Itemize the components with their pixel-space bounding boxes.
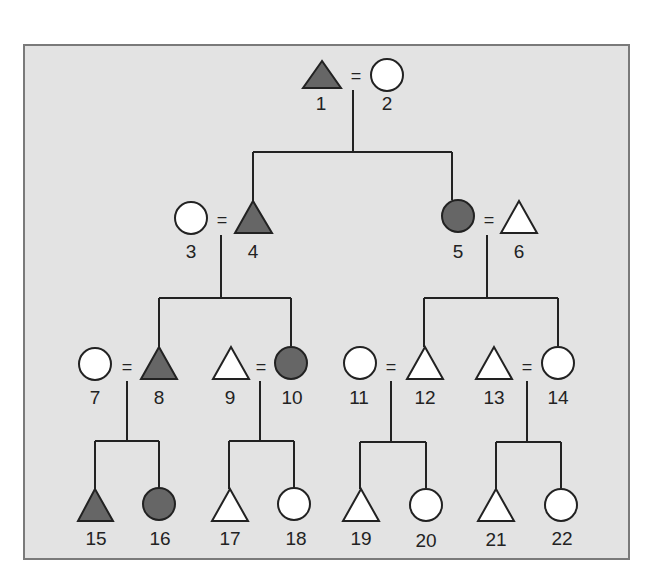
individual-11-circle-icon	[344, 347, 376, 379]
individual-10-circle-icon	[275, 347, 307, 379]
label-16: 16	[149, 528, 170, 549]
label-9: 9	[225, 387, 236, 408]
label-10: 10	[281, 387, 302, 408]
label-15: 15	[85, 528, 106, 549]
individual-5-circle-icon	[442, 200, 474, 232]
label-20: 20	[415, 530, 436, 551]
label-5: 5	[453, 241, 464, 262]
label-4: 4	[248, 241, 259, 262]
individual-12-triangle-icon	[407, 347, 443, 379]
individual-21-triangle-icon	[478, 489, 514, 521]
individual-2-circle-icon	[371, 59, 403, 91]
individual-22-circle-icon	[545, 489, 577, 521]
individual-6-triangle-icon	[501, 201, 537, 233]
marriage-symbol-1-2: =	[351, 66, 362, 86]
individual-8-triangle-icon	[141, 347, 177, 379]
descent-line-7-8	[95, 381, 159, 489]
lines	[95, 90, 561, 489]
descent-line-1-2	[253, 90, 452, 201]
individual-19-triangle-icon	[343, 489, 379, 521]
individual-3-circle-icon	[175, 202, 207, 234]
marriage-symbol-7-8: =	[122, 357, 133, 377]
individual-9-triangle-icon	[213, 347, 249, 379]
marriage-symbol-11-12: =	[386, 357, 397, 377]
individual-16-circle-icon	[143, 488, 175, 520]
individual-13-triangle-icon	[476, 347, 512, 379]
label-14: 14	[547, 387, 569, 408]
label-6: 6	[514, 241, 525, 262]
label-8: 8	[154, 387, 165, 408]
individual-20-circle-icon	[410, 489, 442, 521]
individual-14-circle-icon	[542, 347, 574, 379]
descent-line-3-4	[159, 235, 291, 347]
label-17: 17	[219, 528, 240, 549]
marriage-symbol-5-6: =	[484, 210, 495, 230]
descent-line-5-6	[424, 235, 558, 347]
marriage-symbol-13-14: =	[522, 357, 533, 377]
individual-17-triangle-icon	[212, 489, 248, 521]
label-3: 3	[186, 241, 197, 262]
individual-15-triangle-icon	[78, 489, 113, 521]
label-21: 21	[485, 529, 506, 550]
label-11: 11	[349, 387, 369, 408]
individual-7-circle-icon	[79, 348, 111, 380]
individual-18-circle-icon	[278, 488, 310, 520]
label-7: 7	[90, 387, 101, 408]
marriage-symbol-9-10: =	[256, 357, 267, 377]
individual-1-triangle-icon	[303, 61, 341, 88]
label-12: 12	[414, 387, 435, 408]
pedigree-chart: = = = = = = = 1 2 3 4 5 6 7 8 9 10 11 12…	[0, 0, 647, 571]
marriage-symbol-3-4: =	[217, 210, 228, 230]
label-19: 19	[350, 528, 371, 549]
label-22: 22	[551, 528, 572, 549]
individual-4-triangle-icon	[235, 201, 272, 233]
label-18: 18	[285, 528, 306, 549]
label-2: 2	[382, 93, 393, 114]
label-1: 1	[316, 93, 327, 114]
label-13: 13	[483, 387, 504, 408]
